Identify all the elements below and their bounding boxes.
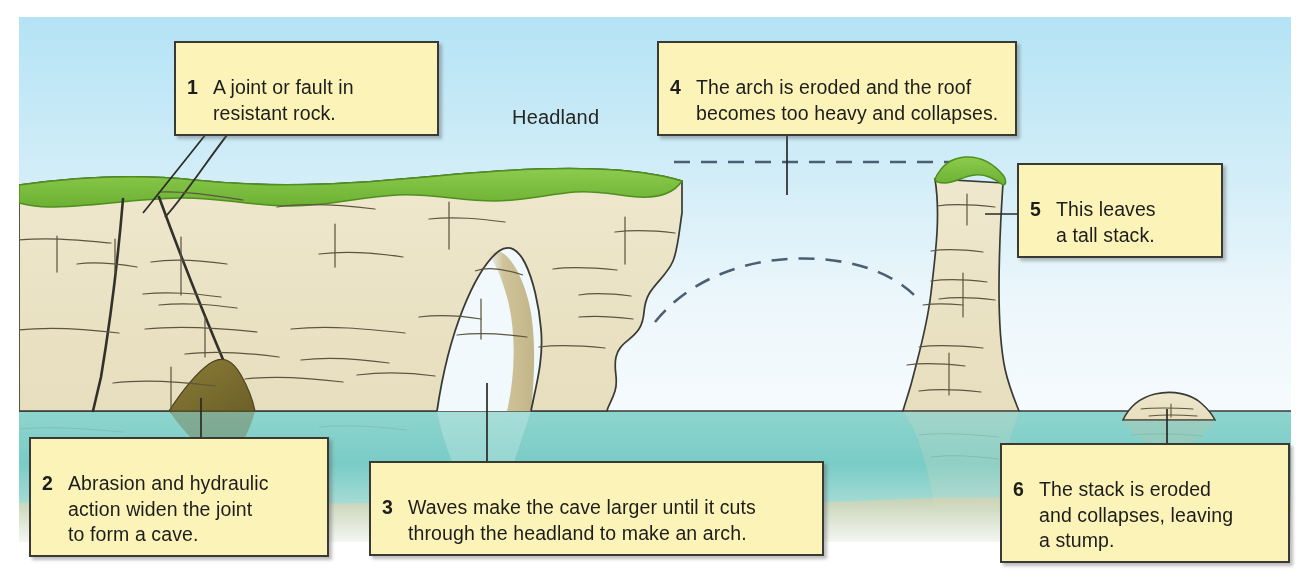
callout-3-text: Waves make the cave larger until it cuts… [408, 495, 756, 546]
callout-6[interactable]: 6The stack is eroded and collapses, leav… [1000, 443, 1290, 563]
callout-4-text: The arch is eroded and the roof becomes … [696, 75, 998, 126]
callout-1-text: A joint or fault in resistant rock. [213, 75, 354, 126]
callout-2-number: 2 [42, 471, 61, 496]
callout-3-number: 3 [382, 495, 401, 520]
callout-4[interactable]: 4The arch is eroded and the roof becomes… [657, 41, 1017, 136]
callout-2[interactable]: 2Abrasion and hydraulic action widen the… [29, 437, 329, 557]
callout-1[interactable]: 1A joint or fault in resistant rock. [174, 41, 439, 136]
figure-stage: Headland 1A joint or fault in resistant … [0, 0, 1308, 579]
callout-6-number: 6 [1013, 477, 1032, 502]
callout-4-number: 4 [670, 75, 689, 100]
callout-6-text: The stack is eroded and collapses, leavi… [1039, 477, 1233, 553]
callout-5-text: This leaves a tall stack. [1056, 197, 1156, 248]
callout-1-number: 1 [187, 75, 206, 100]
cliff-rock-face [19, 169, 682, 411]
headland-cliff [19, 169, 682, 411]
callout-2-text: Abrasion and hydraulic action widen the … [68, 471, 269, 547]
callout-5[interactable]: 5This leaves a tall stack. [1017, 163, 1223, 258]
callout-5-number: 5 [1030, 197, 1049, 222]
callout-3[interactable]: 3Waves make the cave larger until it cut… [369, 461, 824, 556]
headland-label: Headland [512, 106, 599, 129]
